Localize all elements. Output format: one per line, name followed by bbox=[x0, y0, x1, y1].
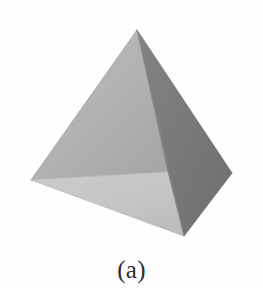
tetrahedron-faces bbox=[31, 30, 232, 236]
tetrahedron-svg bbox=[0, 0, 263, 252]
figure-root: (a) bbox=[0, 0, 263, 288]
solid-illustration-stage bbox=[0, 0, 263, 252]
figure-caption-label: (a) bbox=[117, 257, 146, 282]
tetrahedron-bottom-face bbox=[31, 172, 184, 236]
figure-caption-row: (a) bbox=[0, 250, 263, 288]
